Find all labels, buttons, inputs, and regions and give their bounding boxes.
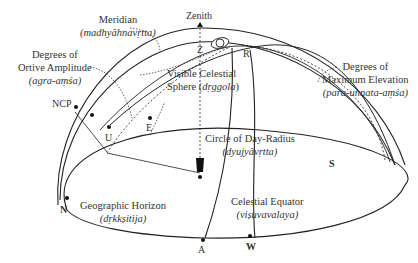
day-radius-label: Circle of Day-Radius (dyujyāvṛtta) <box>205 132 295 158</box>
visible-sphere-sanskrit: dṛggola <box>202 81 235 92</box>
day-radius-sanskrit: (dyujyāvṛtta) <box>205 145 295 158</box>
meridian-sanskrit: (madhyāhnavṛtta) <box>80 26 156 39</box>
point-zenith: Zenith <box>186 10 212 21</box>
meridian-title: Meridian <box>80 13 156 26</box>
point-a: A <box>198 244 205 255</box>
dome-outline <box>58 28 405 205</box>
equator-label: Celestial Equator (viṣuvavalaya) <box>231 195 304 221</box>
point-u: U <box>105 132 112 143</box>
point-s: S <box>329 158 335 169</box>
point-n: N <box>60 204 67 215</box>
point-r: R <box>243 48 250 59</box>
visible-sphere-line2: Sphere (dṛggola) <box>167 80 239 93</box>
visible-sphere-close: ) <box>236 81 240 92</box>
max-elevation-sanskrit: (para-unnata-aṃśa) <box>322 86 409 99</box>
horizon-label: Geographic Horizon (dṛkkṣitija) <box>80 199 166 225</box>
max-elevation-line1: Degrees of <box>322 60 409 73</box>
point-z: Z <box>197 44 203 55</box>
max-elevation-line2: Maximum Elevation <box>322 73 409 86</box>
meridian-label: Meridian (madhyāhnavṛtta) <box>80 13 156 39</box>
visible-sphere-line1: Visible Celestial <box>167 67 239 80</box>
ortive-label: Degrees of Ortive Amplitude (agra-aṃśa) <box>18 48 92 87</box>
ortive-sanskrit: (agra-aṃśa) <box>18 74 92 87</box>
point-ncp: NCP <box>52 98 71 109</box>
ortive-line1: Degrees of <box>18 48 92 61</box>
horizon-sanskrit: (dṛkkṣitija) <box>80 212 166 225</box>
visible-sphere-label: Visible Celestial Sphere (dṛggola) <box>167 67 239 93</box>
visible-sphere-prefix: Sphere ( <box>167 81 202 92</box>
horizon-title: Geographic Horizon <box>80 199 166 212</box>
max-elevation-label: Degrees of Maximum Elevation (para-unnat… <box>322 60 409 99</box>
ortive-line2: Ortive Amplitude <box>18 61 92 74</box>
equator-sanskrit: (viṣuvavalaya) <box>231 208 304 221</box>
point-e: E <box>146 122 152 133</box>
point-w: W <box>246 241 256 252</box>
day-radius-title: Circle of Day-Radius <box>205 132 295 145</box>
equator-title: Celestial Equator <box>231 195 304 208</box>
